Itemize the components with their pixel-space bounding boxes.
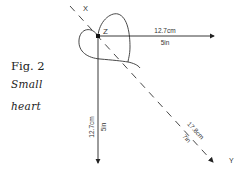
heart-diagram: Z X Y 12.7cm 5in 12.7cm 5in 17.8cm 7in	[0, 0, 246, 180]
horizontal-in-label: 5in	[161, 39, 170, 46]
axis-y-label: Y	[229, 157, 234, 164]
diagonal-in-label: 7in	[181, 133, 192, 144]
vertical-in-label: 5in	[100, 122, 107, 131]
point-z-label: Z	[103, 27, 108, 36]
heart-outline	[79, 14, 140, 68]
point-z-marker	[96, 34, 100, 38]
axis-x-label: X	[83, 4, 88, 13]
vertical-cm-label: 12.7cm	[88, 116, 95, 137]
horizontal-cm-label: 12.7cm	[154, 27, 175, 34]
